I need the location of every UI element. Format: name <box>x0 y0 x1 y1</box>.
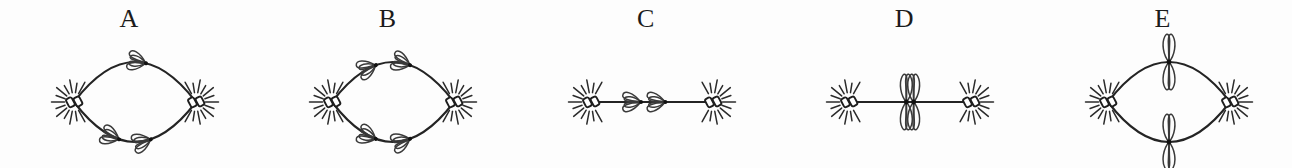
chromatid-arm <box>913 102 920 130</box>
aster-ray <box>1098 86 1103 94</box>
aster-ray <box>595 82 601 93</box>
chromatid-arm <box>1168 114 1175 142</box>
chromosome <box>390 129 415 154</box>
centrosome-pole-right <box>702 80 735 124</box>
aster-ray <box>722 96 731 99</box>
aster-ray <box>75 83 76 92</box>
aster-ray <box>720 108 730 116</box>
aster-ray <box>203 108 213 116</box>
aster-ray <box>1227 83 1228 92</box>
aster-ray <box>581 86 586 94</box>
panel-d-svg <box>775 36 1033 168</box>
aster-ray <box>1237 88 1247 96</box>
aster-ray <box>70 80 72 93</box>
centriole-pair-left <box>582 93 600 110</box>
aster-ray <box>323 86 328 94</box>
chromatid-arm <box>1168 34 1175 62</box>
panel-b: B <box>258 0 516 168</box>
aster-ray <box>323 110 328 118</box>
centrosome-pole-left <box>568 80 601 124</box>
centromere <box>904 100 909 105</box>
aster-ray <box>592 83 593 92</box>
centrosome-pole-right <box>185 80 218 124</box>
aster-ray <box>315 96 324 99</box>
panel-e: E <box>1034 0 1292 168</box>
aster-ray <box>854 82 860 93</box>
aster-ray <box>1098 110 1103 118</box>
kinetochore <box>639 100 643 104</box>
aster-ray <box>1231 80 1233 93</box>
aster-ray <box>56 96 65 99</box>
aster-ray <box>587 111 589 124</box>
aster-ray <box>205 96 214 99</box>
chromatid-arm <box>1168 142 1175 168</box>
aster-ray <box>710 111 711 120</box>
aster-ray <box>1227 111 1228 120</box>
aster-ray <box>315 105 324 108</box>
aster-ray <box>456 111 458 124</box>
aster-ray <box>205 105 214 108</box>
aster-ray <box>851 111 852 120</box>
aster-ray <box>702 110 708 121</box>
aster-ray <box>201 86 206 94</box>
aster-ray <box>840 110 845 118</box>
centrosome-pole-left <box>1085 80 1118 124</box>
centromere <box>911 100 916 105</box>
chromatid-arm <box>648 97 665 102</box>
aster-ray <box>960 82 966 93</box>
aster-ray <box>1103 111 1105 124</box>
aster-ray <box>960 110 966 121</box>
aster-ray <box>587 80 589 93</box>
aster-ray <box>1231 111 1233 124</box>
centrosome-pole-left <box>310 80 343 124</box>
centrosome-pole-right <box>444 80 477 124</box>
aster-ray <box>573 108 583 116</box>
spindle-fibers <box>332 62 454 142</box>
aster-ray <box>451 111 452 120</box>
aster-ray <box>831 96 840 99</box>
aster-ray <box>592 111 593 120</box>
chromosomes <box>356 50 416 154</box>
aster-ray <box>573 96 582 99</box>
aster-ray <box>832 88 842 96</box>
aster-ray <box>203 88 213 96</box>
aster-ray <box>976 110 981 118</box>
aster-ray <box>1234 86 1239 94</box>
aster-ray <box>832 108 842 116</box>
aster-ray <box>315 108 325 116</box>
aster-ray <box>334 83 335 92</box>
aster-ray <box>75 111 76 120</box>
aster-ray <box>56 105 65 108</box>
centriole-pair-left <box>65 93 83 110</box>
aster-ray <box>459 86 464 94</box>
aster-ray <box>722 105 731 108</box>
panel-a: A <box>0 0 258 168</box>
panel-d-diagram <box>775 36 1033 168</box>
aster-ray <box>334 111 335 120</box>
aster-ray <box>718 86 723 94</box>
panel-c-diagram <box>517 36 775 168</box>
aster-ray <box>715 80 717 93</box>
aster-ray <box>1103 80 1105 93</box>
aster-ray <box>463 96 472 99</box>
aster-ray <box>968 111 969 120</box>
aster-ray <box>980 96 989 99</box>
aster-ray <box>1239 105 1248 108</box>
aster-ray <box>710 83 711 92</box>
centriole-pair-left <box>1099 93 1117 110</box>
aster-ray <box>840 86 845 94</box>
aster-ray <box>198 80 200 93</box>
aster-ray <box>459 110 464 118</box>
aster-ray <box>462 88 472 96</box>
aster-ray <box>463 105 472 108</box>
aster-ray <box>980 105 989 108</box>
aster-ray <box>1234 110 1239 118</box>
aster-ray <box>1090 105 1099 108</box>
centromere <box>1166 140 1171 145</box>
chromosomes <box>99 50 156 154</box>
centrosome-pole-right <box>960 80 993 124</box>
aster-ray <box>854 110 860 121</box>
chromosome <box>390 50 415 75</box>
aster-ray <box>451 83 452 92</box>
kinetochore <box>663 100 667 104</box>
